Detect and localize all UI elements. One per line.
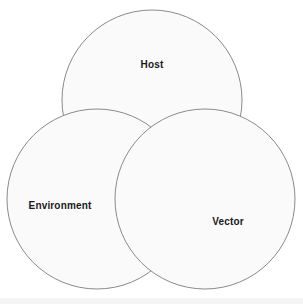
venn-circle-vector[interactable] [115, 109, 295, 289]
venn-label-vector: Vector [212, 216, 243, 227]
venn-diagram-canvas: Host Environment Vector [0, 0, 303, 304]
bottom-edge-strip [0, 298, 303, 304]
venn-diagram-figure: Host Environment Vector [0, 0, 303, 304]
venn-label-environment: Environment [29, 200, 92, 211]
venn-label-host: Host [141, 59, 164, 70]
